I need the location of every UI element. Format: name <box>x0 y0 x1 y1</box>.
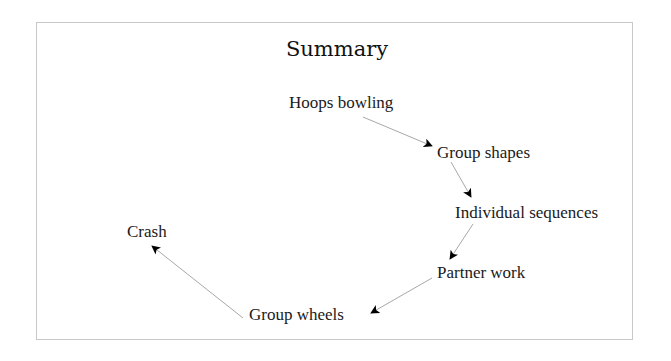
flow-diagram: Summary Hoops bowling Group shapes Indiv… <box>0 0 671 361</box>
node-crash: Crash <box>127 222 167 241</box>
edge-hoops-to-group-shapes <box>363 117 432 146</box>
node-group-wheels: Group wheels <box>249 305 344 324</box>
edge-group-shapes-to-individual <box>451 162 471 197</box>
diagram-title: Summary <box>286 37 388 61</box>
node-partner-work: Partner work <box>437 263 526 282</box>
edge-group-wheels-to-crash <box>152 246 243 318</box>
node-individual-sequences: Individual sequences <box>455 203 598 222</box>
node-group-shapes: Group shapes <box>437 143 530 162</box>
edge-partner-to-group-wheels <box>371 278 432 313</box>
edge-individual-to-partner <box>450 224 473 259</box>
node-hoops-bowling: Hoops bowling <box>289 93 394 112</box>
